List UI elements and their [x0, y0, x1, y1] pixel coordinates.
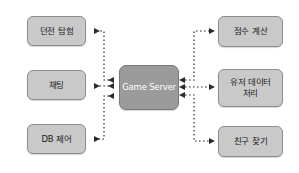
node-label: 던전 탐험 [38, 26, 76, 37]
edge-server-to-right-3 [185, 95, 210, 141]
node-label: 친구 찾기 [232, 136, 270, 147]
node-user-data-processing[interactable]: 유저 데이터 처리 [218, 69, 283, 107]
node-find-friends[interactable]: 친구 찾기 [218, 126, 283, 157]
node-chat[interactable]: 채팅 [27, 70, 86, 100]
edge-server-to-left-3 [94, 96, 113, 139]
edge-server-to-left-1 [94, 31, 113, 80]
node-label: 유저 데이터 처리 [228, 77, 274, 98]
node-game-server[interactable]: Game Server [119, 65, 179, 110]
edge-server-to-right-1 [185, 31, 210, 80]
node-db-control[interactable]: DB 제어 [27, 124, 86, 154]
node-label: 점수 계산 [232, 26, 270, 37]
node-label: Game Server [120, 82, 178, 93]
node-label: 채팅 [47, 80, 67, 91]
diagram-canvas: 던전 탐험 채팅 DB 제어 Game Server 점수 계산 유저 데이터 … [0, 0, 299, 173]
node-label: DB 제어 [39, 134, 73, 145]
node-score-calculation[interactable]: 점수 계산 [218, 16, 283, 47]
node-dungeon-exploration[interactable]: 던전 탐험 [27, 16, 86, 46]
